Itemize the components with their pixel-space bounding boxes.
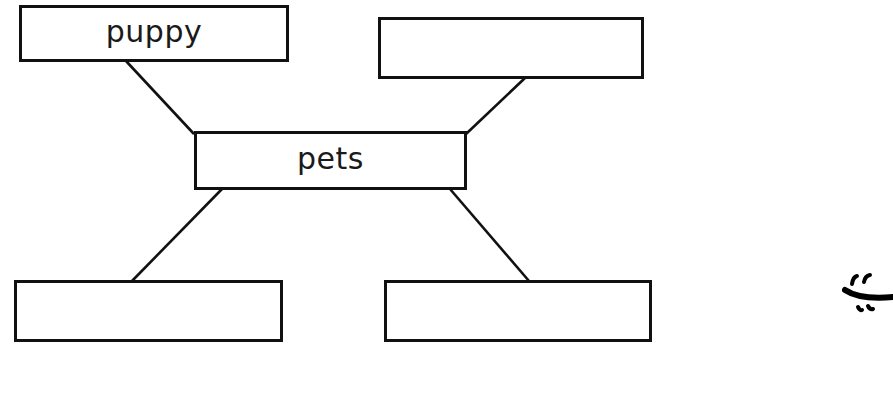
node-top-right-blank[interactable] (378, 17, 644, 79)
node-center-pets: pets (194, 131, 467, 190)
node-center-label: pets (297, 144, 364, 178)
edge-pets-bottom-left (132, 189, 222, 281)
node-puppy-label: puppy (106, 17, 202, 51)
edge-pets-bottom-right (450, 189, 529, 281)
partial-smiley-face-icon (840, 262, 893, 317)
concept-web-diagram: puppy pets (0, 0, 893, 396)
node-bottom-right-blank[interactable] (384, 280, 652, 342)
edge-pets-puppy (126, 61, 194, 134)
node-puppy: puppy (19, 5, 289, 62)
edge-pets-top-right (466, 78, 525, 134)
node-bottom-left-blank[interactable] (14, 280, 283, 342)
